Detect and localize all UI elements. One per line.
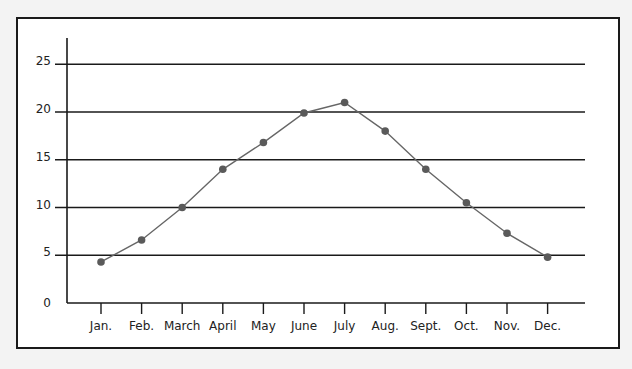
- data-point-marker: [544, 253, 552, 261]
- x-tick-label: Sept.: [410, 319, 441, 333]
- data-point-marker: [138, 236, 146, 244]
- x-tick-label: March: [164, 319, 201, 333]
- x-tick-label: April: [209, 319, 236, 333]
- data-point-marker: [422, 166, 430, 174]
- line-chart: 0510152025 Jan.Feb.MarchAprilMayJuneJuly…: [0, 0, 632, 369]
- x-tick-label: June: [290, 319, 317, 333]
- y-tick-label: 25: [36, 54, 51, 68]
- x-tick-label: Aug.: [372, 319, 399, 333]
- y-tick-labels: 0510152025: [36, 54, 51, 310]
- y-tick-label: 10: [36, 198, 51, 212]
- x-tick-labels: Jan.Feb.MarchAprilMayJuneJulyAug.Sept.Oc…: [89, 303, 561, 333]
- y-tick-label: 20: [36, 102, 51, 116]
- x-tick-label: Nov.: [494, 319, 520, 333]
- x-tick-label: Oct.: [454, 319, 479, 333]
- data-point-marker: [341, 99, 349, 107]
- gridlines: [55, 64, 585, 255]
- axes: [67, 38, 585, 303]
- x-tick-label: May: [251, 319, 276, 333]
- data-point-marker: [97, 258, 105, 266]
- y-tick-label: 15: [36, 150, 51, 164]
- data-point-marker: [219, 166, 227, 174]
- data-markers: [97, 99, 551, 266]
- y-tick-label: 0: [43, 296, 51, 310]
- data-point-marker: [300, 109, 308, 117]
- data-point-marker: [503, 229, 511, 237]
- data-point-marker: [260, 139, 268, 147]
- data-point-marker: [463, 199, 471, 207]
- x-tick-label: July: [333, 319, 356, 333]
- y-tick-label: 5: [43, 245, 51, 259]
- x-tick-label: Jan.: [89, 319, 112, 333]
- data-point-marker: [178, 204, 186, 212]
- data-line: [101, 102, 548, 261]
- data-point-marker: [381, 127, 389, 135]
- x-tick-label: Feb.: [129, 319, 154, 333]
- x-tick-label: Dec.: [534, 319, 561, 333]
